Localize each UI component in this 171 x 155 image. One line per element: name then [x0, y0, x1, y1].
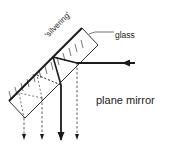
- reflected-ray: [53, 57, 61, 85]
- plane-mirror-diagram: 'silvering' glass plane mirror: [0, 0, 171, 155]
- emergent-arrow-icon: [58, 132, 65, 141]
- silvering-surface: [9, 28, 82, 101]
- silvering-label: 'silvering': [43, 10, 73, 40]
- refracted-ray: [53, 57, 77, 63]
- glass-slab: [9, 28, 98, 118]
- glass-leader-line: [89, 32, 114, 34]
- caption-label: plane mirror: [96, 94, 155, 106]
- secondary-reflections: [19, 57, 77, 118]
- dashed-ray-arrow-icons: [22, 134, 79, 140]
- incident-arrow-icon: [122, 60, 130, 67]
- glass-label: glass: [115, 30, 135, 40]
